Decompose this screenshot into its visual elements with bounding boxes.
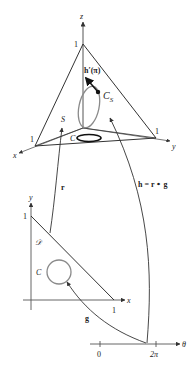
d-x-tick-label: 1 xyxy=(112,306,116,315)
surface-label-s: S xyxy=(61,115,65,124)
g-label: g xyxy=(85,314,89,323)
r-arrow xyxy=(50,128,62,233)
y-tick-label: 1 xyxy=(155,127,159,136)
parameter-domain-figure: y 1 x 1 𝒟 C xyxy=(23,193,131,315)
curve-c-projection-label: C xyxy=(70,134,76,143)
d-hypotenuse xyxy=(31,216,114,300)
curve-cs-label: CS xyxy=(103,90,114,104)
stokes-diagram: z 1 x 1 y 1 S h′(π) CS C r h = r ∘ g y 1… xyxy=(0,0,195,375)
theta-axis-figure: θ 0 2π xyxy=(90,340,186,359)
x-axis-label: x xyxy=(12,151,17,160)
d-y-tick-label: 1 xyxy=(23,212,27,221)
tangent-point xyxy=(96,90,100,94)
z-axis-label: z xyxy=(79,12,84,21)
theta-axis-label: θ xyxy=(182,340,186,349)
region-d-label: 𝒟 xyxy=(35,238,43,247)
d-curve-c xyxy=(47,260,71,284)
r-label: r xyxy=(61,183,65,192)
y-axis-label: y xyxy=(171,142,176,151)
x-tick-label: 1 xyxy=(30,135,34,144)
z-tick-label: 1 xyxy=(74,40,78,49)
base-edge-y xyxy=(83,128,156,138)
surface-edge-zy xyxy=(83,44,156,138)
d-curve-c-label: C xyxy=(36,268,42,277)
surface-3d-figure: z 1 x 1 y 1 S h′(π) CS C xyxy=(12,12,176,160)
mapping-arrows: r h = r ∘ g xyxy=(50,118,167,343)
theta-tick-2pi-label: 2π xyxy=(150,350,159,359)
d-x-axis-label: x xyxy=(126,296,131,305)
tangent-label: h′(π) xyxy=(84,66,101,75)
d-y-axis-label: y xyxy=(28,193,33,202)
h-label: h = r ∘ g xyxy=(138,180,167,189)
theta-tick-0-label: 0 xyxy=(97,350,101,359)
curve-c-projection xyxy=(77,135,101,142)
g-arrow xyxy=(67,282,146,343)
tangent-vector-arrow xyxy=(86,78,98,92)
